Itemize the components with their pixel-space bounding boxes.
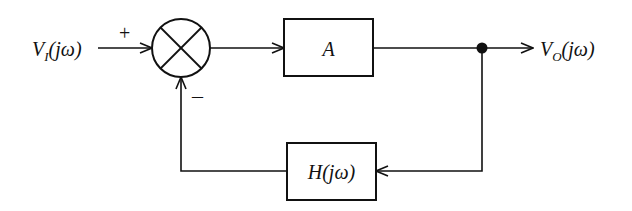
output-label: VO(jω) xyxy=(540,38,595,64)
forward-block-label: A xyxy=(320,38,335,60)
summing-junction xyxy=(152,19,210,77)
feedback-right-path xyxy=(376,48,482,171)
feedback-block: H(jω) xyxy=(287,143,376,200)
input-label: VI(jω) xyxy=(32,38,82,64)
minus-sign: – xyxy=(191,83,204,108)
feedback-block-diagram: VI(jω) + – A VO(jω) H(jω) xyxy=(0,0,632,211)
forward-block: A xyxy=(284,19,373,76)
feedback-block-label: H(jω) xyxy=(307,161,356,184)
plus-sign: + xyxy=(119,22,130,44)
